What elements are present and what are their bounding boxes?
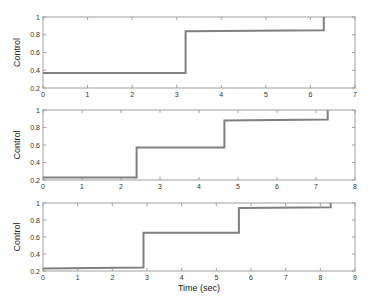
x-tick-label: 3 [158, 183, 162, 190]
y-tick-label: 0.6 [30, 49, 40, 56]
x-tick-label: 5 [214, 274, 218, 281]
y-axis-label: Control [12, 130, 22, 159]
y-axis-label: Control [12, 38, 22, 67]
x-tick-label: 2 [119, 183, 123, 190]
x-tick-label: 1 [80, 183, 84, 190]
x-tick-label: 0 [41, 183, 45, 190]
x-tick-label: 6 [308, 91, 312, 98]
x-tick-label: 0 [41, 91, 45, 98]
subplot-1: 012345670.20.40.60.81Control [12, 14, 357, 99]
plot-frame [43, 203, 355, 271]
x-tick-label: 7 [314, 183, 318, 190]
x-tick-label: 9 [353, 274, 357, 281]
x-tick-label: 8 [353, 183, 357, 190]
y-tick-label: 0.4 [30, 67, 40, 74]
y-tick-label: 0.6 [30, 142, 40, 149]
y-tick-label: 0.2 [30, 268, 40, 275]
y-tick-label: 0.6 [30, 234, 40, 241]
x-tick-label: 3 [145, 274, 149, 281]
y-tick-label: 0.4 [30, 251, 40, 258]
x-tick-label: 8 [318, 274, 322, 281]
x-tick-label: 5 [264, 91, 268, 98]
x-tick-label: 4 [219, 91, 223, 98]
y-tick-label: 0.8 [30, 217, 40, 224]
x-tick-label: 4 [180, 274, 184, 281]
y-tick-label: 0.2 [30, 85, 40, 92]
x-tick-label: 7 [284, 274, 288, 281]
x-tick-label: 2 [110, 274, 114, 281]
x-tick-label: 2 [130, 91, 134, 98]
x-tick-label: 3 [175, 91, 179, 98]
y-tick-label: 0.2 [30, 177, 40, 184]
y-tick-label: 1 [36, 200, 40, 207]
y-tick-label: 1 [36, 107, 40, 114]
subplot-2: 0123456780.20.40.60.81Control [12, 107, 357, 191]
subplot-3: 01234567890.20.40.60.81ControlTime (sec) [12, 200, 357, 294]
y-tick-label: 0.4 [30, 159, 40, 166]
plot-frame [43, 17, 355, 88]
y-tick-label: 0.8 [30, 124, 40, 131]
x-tick-label: 6 [275, 183, 279, 190]
x-axis-label: Time (sec) [178, 283, 220, 293]
x-tick-label: 7 [353, 91, 357, 98]
x-tick-label: 6 [249, 274, 253, 281]
x-tick-label: 1 [86, 91, 90, 98]
x-tick-label: 4 [197, 183, 201, 190]
y-tick-label: 0.8 [30, 31, 40, 38]
x-tick-label: 5 [236, 183, 240, 190]
y-axis-label: Control [12, 222, 22, 251]
x-tick-label: 0 [41, 274, 45, 281]
figure: 012345670.20.40.60.81Control0123456780.2… [0, 0, 371, 307]
x-tick-label: 1 [76, 274, 80, 281]
y-tick-label: 1 [36, 14, 40, 21]
